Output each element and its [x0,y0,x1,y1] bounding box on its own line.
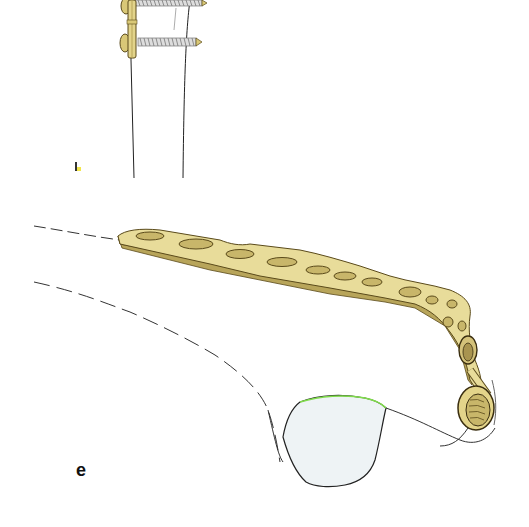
upper-bone-view [75,0,207,178]
distal-locking-ring [458,370,494,430]
panel-label: e [76,460,86,481]
bone-plate-side-view [127,0,137,58]
illustration-canvas: e [0,0,529,527]
bone-cavity [283,395,386,486]
contoured-bone-plate [118,229,481,392]
